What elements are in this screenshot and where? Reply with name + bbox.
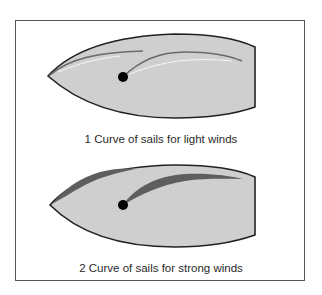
- hull-outline-1: [48, 34, 255, 118]
- mast-dot-2: [118, 200, 128, 210]
- sail-curve-diagram: [0, 0, 322, 295]
- figure-light-winds: [48, 34, 255, 118]
- figure-strong-winds: [50, 165, 255, 247]
- mast-dot-1: [118, 72, 128, 82]
- caption-strong-winds: 2 Curve of sails for strong winds: [0, 262, 322, 274]
- caption-light-winds: 1 Curve of sails for light winds: [0, 133, 322, 145]
